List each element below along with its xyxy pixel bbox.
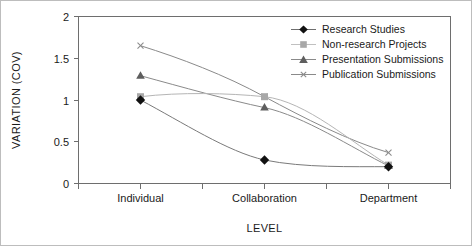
legend-item-publication-submissions[interactable]: Publication Submissions xyxy=(291,68,436,80)
y-axis-ticks xyxy=(74,17,79,184)
chart-container: 2 1.5 1 0.5 0 Individual Collaboration D… xyxy=(0,0,473,247)
y-tick-label: 1.5 xyxy=(54,53,69,65)
legend-label-presentation-submissions: Presentation Submissions xyxy=(322,53,443,65)
chart-legend: Research Studies Non-research Projects P… xyxy=(291,23,443,80)
x-axis-category-labels: Individual Collaboration Department xyxy=(117,192,417,204)
x-category-label-department: Department xyxy=(360,192,417,204)
square-marker-icon xyxy=(300,41,307,48)
y-axis-title: VARIATION (COV) xyxy=(10,51,22,149)
legend-label-research-studies: Research Studies xyxy=(322,23,405,35)
diamond-marker-icon xyxy=(299,25,308,33)
legend-label-non-research-projects: Non-research Projects xyxy=(322,38,426,50)
y-tick-label: 0.5 xyxy=(54,136,69,148)
y-axis-tick-labels: 2 1.5 1 0.5 0 xyxy=(54,11,69,190)
y-tick-label: 0 xyxy=(63,178,69,190)
line-chart: 2 1.5 1 0.5 0 Individual Collaboration D… xyxy=(0,0,473,247)
x-category-label-individual: Individual xyxy=(117,192,163,204)
x-axis-ticks xyxy=(79,184,451,189)
y-tick-label: 2 xyxy=(63,11,69,23)
legend-label-publication-submissions: Publication Submissions xyxy=(322,68,436,80)
x-category-label-collaboration: Collaboration xyxy=(232,192,297,204)
legend-item-non-research-projects[interactable]: Non-research Projects xyxy=(291,38,426,50)
legend-item-research-studies[interactable]: Research Studies xyxy=(291,23,405,35)
y-tick-label: 1 xyxy=(63,95,69,107)
series-markers-presentation-submissions xyxy=(136,71,393,169)
x-axis-title: LEVEL xyxy=(246,222,282,234)
legend-item-presentation-submissions[interactable]: Presentation Submissions xyxy=(291,53,443,65)
series-presentation-submissions xyxy=(136,71,393,169)
